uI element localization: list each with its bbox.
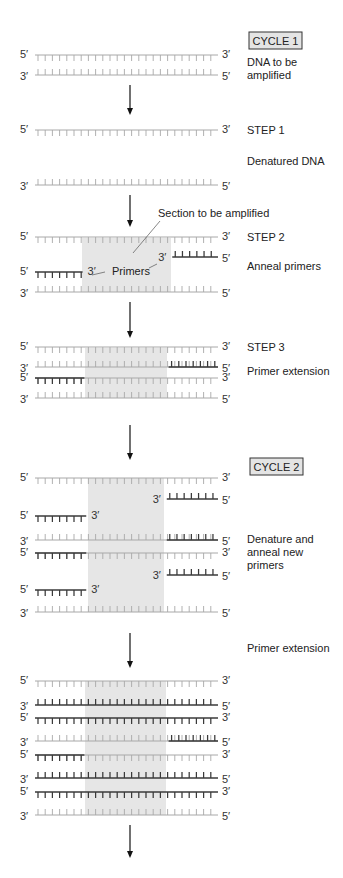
label-denature-anneal-3: primers <box>247 559 284 571</box>
cycle2-denature-anneal-strand-4-right-end-label: 3′ <box>222 546 230 558</box>
cycle2-extension-strand-2-right-end-label: 3′ <box>222 711 230 723</box>
label-step2: STEP 2 <box>247 231 285 243</box>
arrow-6-head <box>127 851 133 858</box>
cycle2-extension-strand-4-right-end-label: 3′ <box>222 748 230 760</box>
step1-denatured-strand-1-right-end-label: 5′ <box>222 180 230 192</box>
cycle2-denature-anneal-strand-5-five-prime: 5′ <box>222 570 230 582</box>
cycle1-start-strand-0-left-end-label: 5′ <box>20 48 28 60</box>
cycle2-denature-anneal-strand-1-five-prime: 5′ <box>222 494 230 506</box>
annotation-section-to-be-amplified: Section to be amplified <box>158 207 269 219</box>
cycle2-extension-strand-4-left-end-label: 5′ <box>20 748 28 760</box>
label-dna-to-be-amplified-1: DNA to be <box>247 56 297 68</box>
cycle2-denature-anneal-strand-0-right-end-label: 3′ <box>222 471 230 483</box>
cycle2-denature-anneal-strand-6-three-prime: 3′ <box>91 583 99 595</box>
step2-anneal-strand-1-three-prime: 3′ <box>158 251 166 263</box>
shade-cycle2-extension <box>85 681 166 815</box>
label-primer-extension-1: Primer extension <box>247 365 330 377</box>
cycle2-extension-strand-3-right-end-label: 5′ <box>222 736 230 748</box>
cycle1-start-strand-0-right-end-label: 3′ <box>222 48 230 60</box>
arrow-3-head <box>127 331 133 338</box>
cycle2-extension-strand-5-right-end-label: 5′ <box>222 773 230 785</box>
cycle2-extension-strand-6-right-end-label: 3′ <box>222 785 230 797</box>
label-step3: STEP 3 <box>247 341 285 353</box>
cycle2-denature-anneal-strand-1-three-prime: 3′ <box>153 493 161 505</box>
cycle1-start-strand-1-right-end-label: 5′ <box>222 70 230 82</box>
arrow-4-head <box>127 453 133 460</box>
step3-extension-strand-0-right-end-label: 3′ <box>222 340 230 352</box>
step3-extension-strand-3-right-end-label: 5′ <box>222 393 230 405</box>
cycle2-denature-anneal-strand-7-right-end-label: 5′ <box>222 607 230 619</box>
label-primer-extension-2: Primer extension <box>247 642 330 654</box>
step2-anneal-strand-0-right-end-label: 3′ <box>222 230 230 242</box>
label-denatured-dna: Denatured DNA <box>247 155 325 167</box>
cycle2-denature-anneal-strand-7-left-end-label: 3′ <box>20 607 28 619</box>
step3-extension-strand-2-right-end-label: 3′ <box>222 371 230 383</box>
step1-denatured-strand-0-right-end-label: 3′ <box>222 123 230 135</box>
step2-anneal-strand-1-five-prime: 5′ <box>222 252 230 264</box>
step3-extension-strand-3-left-end-label: 3′ <box>20 393 28 405</box>
arrow-1-head <box>127 108 133 115</box>
cycle2-denature-anneal-strand-2-three-prime: 3′ <box>91 509 99 521</box>
cycle2-extension-strand-0-right-end-label: 3′ <box>222 674 230 686</box>
step2-anneal-strand-3-right-end-label: 5′ <box>222 287 230 299</box>
shade-step3-extension <box>85 348 167 398</box>
arrow-5-head <box>127 661 133 668</box>
label-denature-anneal-1: Denature and <box>247 533 314 545</box>
step3-extension-strand-0-left-end-label: 5′ <box>20 340 28 352</box>
cycle2-extension-strand-7-right-end-label: 5′ <box>222 810 230 822</box>
cycle2-denature-anneal-strand-6-five-prime: 5′ <box>20 583 28 595</box>
step2-anneal-strand-2-five-prime: 5′ <box>20 265 28 277</box>
label-step1: STEP 1 <box>247 124 285 136</box>
cycle2-label: CYCLE 2 <box>254 461 300 473</box>
step2-anneal-strand-2-three-prime: 3′ <box>88 265 96 277</box>
label-denature-anneal-2: anneal new <box>247 546 303 558</box>
cycle2-extension-strand-0-left-end-label: 5′ <box>20 674 28 686</box>
label-anneal-primers: Anneal primers <box>247 260 321 272</box>
step2-anneal-strand-0-left-end-label: 5′ <box>20 230 28 242</box>
cycle2-badge: CYCLE 2 <box>250 458 303 475</box>
label-dna-to-be-amplified-2: amplified <box>247 69 291 81</box>
step1-denatured-strand-0-left-end-label: 5′ <box>20 123 28 135</box>
cycle2-denature-anneal-strand-5-three-prime: 3′ <box>153 569 161 581</box>
cycle2-extension-strand-5-left-end-label: 3′ <box>20 773 28 785</box>
cycle2-denature-anneal-strand-0-left-end-label: 5′ <box>20 471 28 483</box>
cycle2-extension-strand-7-left-end-label: 3′ <box>20 810 28 822</box>
cycle1-badge: CYCLE 1 <box>249 32 302 49</box>
cycle1-start-strand-1-left-end-label: 3′ <box>20 70 28 82</box>
cycle2-extension-strand-2-left-end-label: 5′ <box>20 711 28 723</box>
cycle1-label: CYCLE 1 <box>253 35 299 47</box>
step1-denatured-strand-1-left-end-label: 3′ <box>20 180 28 192</box>
step3-extension-strand-2-left-end-label: 5′ <box>20 371 28 383</box>
cycle2-extension-strand-3-left-end-label: 3′ <box>20 736 28 748</box>
cycle2-extension-strand-6-left-end-label: 5′ <box>20 785 28 797</box>
step2-anneal-strand-3-left-end-label: 3′ <box>20 287 28 299</box>
cycle2-denature-anneal-strand-4-left-end-label: 5′ <box>20 546 28 558</box>
annotation-primers: Primers <box>112 265 150 277</box>
amplified-section-shading <box>82 238 171 815</box>
cycle2-denature-anneal-strand-2-five-prime: 5′ <box>20 509 28 521</box>
pcr-diagram: 5′3′3′5′5′3′3′5′5′3′3′5′5′3′3′5′5′3′3′5′… <box>0 0 343 878</box>
arrow-2-head <box>127 220 133 227</box>
